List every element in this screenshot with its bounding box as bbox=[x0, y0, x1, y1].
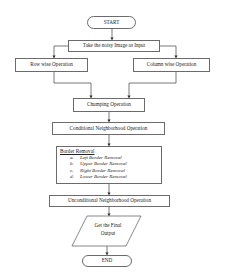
column-operation-label: Column wise Operation bbox=[147, 62, 197, 68]
end-label: END bbox=[102, 258, 113, 264]
border-removal-node: Border Removal a. Left Border Removal b.… bbox=[56, 146, 162, 184]
conditional-label: Conditional Neighborhood Operation bbox=[70, 126, 148, 132]
row-operation-node: Row wise Operation bbox=[15, 58, 88, 72]
output-label: Get the Final Output bbox=[80, 222, 136, 238]
start-node: START bbox=[87, 16, 136, 29]
unconditional-node: Unconditional Neighborhood Operation bbox=[49, 195, 170, 207]
start-label: START bbox=[104, 20, 120, 26]
output-line-2: Output bbox=[80, 230, 136, 238]
input-node: Take the noisy Image as Input bbox=[68, 40, 160, 52]
item-letter: d. bbox=[70, 174, 80, 181]
row-operation-label: Row wise Operation bbox=[30, 62, 73, 68]
chumping-node: Chumping Operation bbox=[73, 98, 145, 112]
end-node: END bbox=[82, 255, 132, 267]
border-removal-item: d. Lower Border Removal bbox=[70, 174, 127, 181]
input-label: Take the noisy Image as Input bbox=[83, 43, 145, 49]
item-label: Lower Border Removal bbox=[80, 174, 127, 181]
output-line-1: Get the Final bbox=[80, 222, 136, 230]
chumping-label: Chumping Operation bbox=[87, 102, 131, 108]
unconditional-label: Unconditional Neighborhood Operation bbox=[68, 198, 151, 204]
column-operation-node: Column wise Operation bbox=[133, 58, 210, 72]
conditional-node: Conditional Neighborhood Operation bbox=[52, 122, 165, 135]
